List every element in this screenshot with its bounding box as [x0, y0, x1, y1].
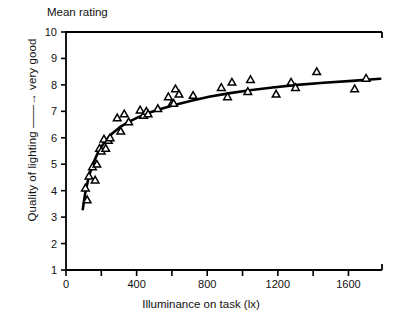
y-tick-group: 12345678910 — [45, 26, 66, 276]
data-point-marker — [106, 134, 114, 141]
y-tick-label: 5 — [51, 158, 57, 170]
data-point-marker — [287, 78, 295, 85]
fit-curve-path — [83, 79, 380, 209]
chart-container: Mean rating Quality of lighting ——→ very… — [0, 0, 402, 324]
fit-curve — [83, 79, 380, 209]
y-tick-label: 3 — [51, 211, 57, 223]
y-tick-label: 4 — [51, 185, 57, 197]
data-point-marker — [351, 85, 359, 92]
y-tick-label: 9 — [51, 52, 57, 64]
y-tick-label: 6 — [51, 132, 57, 144]
data-point-marker — [272, 90, 280, 97]
data-points — [82, 68, 370, 203]
data-point-marker — [313, 68, 321, 75]
x-tick-label: 1200 — [266, 278, 290, 290]
y-tick-label: 1 — [51, 264, 57, 276]
x-tick-label: 400 — [127, 278, 145, 290]
y-tick-label: 7 — [51, 105, 57, 117]
y-tick-label: 8 — [51, 79, 57, 91]
data-point-marker — [165, 93, 173, 100]
data-point-marker — [189, 92, 197, 99]
data-point-marker — [247, 76, 255, 83]
data-point-marker — [244, 88, 252, 95]
data-point-marker — [228, 78, 236, 85]
data-point-marker — [218, 84, 226, 91]
plot-area: 12345678910 040080012001600 — [0, 0, 402, 324]
data-point-marker — [154, 105, 162, 112]
axis-lines — [66, 32, 382, 270]
data-point-marker — [362, 74, 370, 81]
x-tick-label: 800 — [198, 278, 216, 290]
data-point-marker — [120, 110, 128, 117]
x-tick-label: 1600 — [336, 278, 360, 290]
y-tick-label: 2 — [51, 238, 57, 250]
x-tick-label: 0 — [63, 278, 69, 290]
data-point-marker — [125, 118, 133, 125]
x-tick-group: 040080012001600 — [63, 270, 361, 290]
data-point-marker — [85, 172, 93, 179]
y-tick-label: 10 — [45, 26, 57, 38]
